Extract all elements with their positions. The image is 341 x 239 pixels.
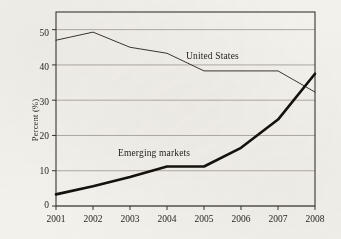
line-chart-figure: Percent (%) 50 40 30 20 10 0 2001 2002 2… <box>0 0 341 239</box>
plot-frame <box>56 12 315 206</box>
data-series <box>56 32 315 194</box>
plot-area <box>0 0 341 239</box>
gridlines <box>56 30 315 206</box>
